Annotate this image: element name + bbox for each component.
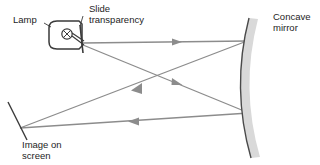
label-slide-line1: Slide: [89, 3, 110, 14]
screen-surface: [8, 102, 27, 140]
label-lamp: Lamp: [13, 14, 37, 25]
ray-group-reflected: [20, 41, 249, 128]
diagram-canvas: Lamp Slide transparency Concave mirror I…: [0, 0, 320, 165]
ray-lower-outgoing-arrowhead: [172, 78, 183, 85]
image-screen: [8, 102, 27, 140]
optics-ray-diagram: Lamp Slide transparency Concave mirror I…: [0, 0, 320, 165]
concave-mirror: [240, 18, 260, 158]
label-mirror-line1: Concave: [273, 11, 311, 22]
lamp-housing: [49, 21, 84, 49]
ray-lower-reflected-arrowhead: [128, 118, 139, 126]
label-screen-line2: screen: [22, 150, 51, 161]
label-screen-line1: Image on: [22, 139, 62, 150]
ray-upper-outgoing-arrowhead: [172, 39, 182, 46]
mirror-body: [240, 18, 260, 158]
ray-upper-outgoing: [83, 41, 247, 43]
ray-lower-outgoing: [83, 45, 249, 113]
label-mirror-line2: mirror: [273, 22, 298, 33]
label-slide-line2: transparency: [89, 14, 144, 25]
